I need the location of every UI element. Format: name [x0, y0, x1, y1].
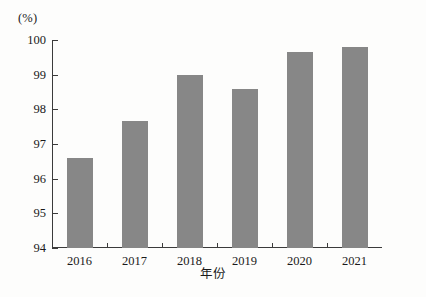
- bar: [342, 47, 368, 248]
- bar-chart: (%) 949596979899100 20162017201820192020…: [0, 0, 426, 297]
- x-axis-tick: [162, 243, 163, 248]
- x-axis-tick-label: 2016: [67, 255, 92, 268]
- x-axis-tick-label: 2018: [177, 255, 202, 268]
- y-axis-tick-label: 96: [34, 172, 47, 185]
- y-axis-tick: [52, 40, 58, 41]
- x-axis-tick-label: 2021: [342, 255, 367, 268]
- y-axis-tick: [52, 144, 58, 145]
- y-axis-tick: [52, 179, 58, 180]
- y-axis-tick: [52, 213, 58, 214]
- x-axis-tick: [217, 243, 218, 248]
- y-axis-tick: [52, 75, 58, 76]
- x-axis-tick: [272, 243, 273, 248]
- y-axis-tick-label: 100: [27, 34, 46, 47]
- bar: [177, 75, 203, 248]
- bar: [67, 158, 93, 248]
- y-axis-tick-label: 94: [34, 242, 47, 255]
- plot-area: 949596979899100 201620172018201920202021: [52, 40, 382, 248]
- bar: [287, 52, 313, 248]
- bar: [122, 121, 148, 248]
- y-axis-tick: [52, 248, 58, 249]
- y-axis-tick-label: 98: [34, 103, 47, 116]
- x-axis-tick-label: 2020: [287, 255, 312, 268]
- x-axis-tick-label: 2017: [122, 255, 147, 268]
- y-axis-tick-label: 99: [34, 68, 47, 81]
- y-axis-tick-label: 95: [34, 207, 47, 220]
- x-axis-tick: [107, 243, 108, 248]
- bar: [232, 89, 258, 248]
- y-axis-unit-label: (%): [18, 12, 37, 25]
- x-axis-tick: [327, 243, 328, 248]
- x-axis-title: 年份: [0, 268, 426, 281]
- x-axis-tick-label: 2019: [232, 255, 257, 268]
- y-axis-tick-label: 97: [34, 138, 47, 151]
- y-axis-tick: [52, 109, 58, 110]
